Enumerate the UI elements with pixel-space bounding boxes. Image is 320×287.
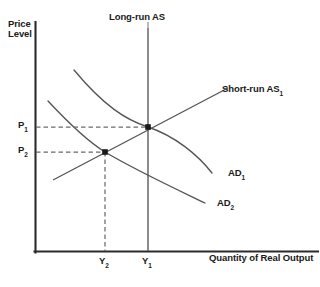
y-axis-tick-p2: P2 — [18, 145, 28, 155]
curve-label-short-run-as1-text: Short-run AS — [222, 83, 280, 94]
equilibrium-marker-e1 — [145, 124, 151, 130]
as-ad-diagram: Price Level Quantity of Real Output Long… — [0, 0, 320, 287]
curve-ad2 — [48, 101, 205, 203]
curve-label-ad1-text: AD — [228, 167, 242, 178]
curve-short-run-as1 — [53, 88, 228, 180]
y-axis-tick-p2-subscript: 2 — [24, 151, 28, 158]
x-axis-tick-y1-subscript: 1 — [148, 262, 152, 269]
curve-label-ad2: AD2 — [217, 198, 234, 208]
x-axis-title: Quantity of Real Output — [209, 253, 313, 263]
curve-label-ad2-text: AD — [217, 197, 231, 208]
curve-label-ad2-subscript: 2 — [231, 204, 235, 211]
y-axis-tick-p1-subscript: 1 — [24, 126, 28, 133]
x-axis-tick-y2-subscript: 2 — [105, 262, 109, 269]
guide-lines-group — [36, 127, 148, 251]
x-axis-tick-y2: Y2 — [99, 256, 109, 266]
diagram-canvas — [0, 0, 320, 287]
x-axis-tick-y1: Y1 — [142, 256, 152, 266]
axes-group — [35, 22, 319, 253]
curve-label-long-run-as: Long-run AS — [109, 12, 165, 22]
curve-label-short-run-as1: Short-run AS1 — [222, 84, 283, 94]
curve-label-ad1: AD1 — [228, 168, 245, 178]
y-axis-tick-p1: P1 — [18, 120, 28, 130]
y-axis-title: Price Level — [8, 19, 32, 40]
equilibrium-marker-e2 — [102, 149, 108, 155]
y-axis-title-line2: Level — [8, 29, 32, 39]
curve-label-short-run-as1-subscript: 1 — [280, 90, 284, 97]
curve-label-ad1-subscript: 1 — [242, 174, 246, 181]
